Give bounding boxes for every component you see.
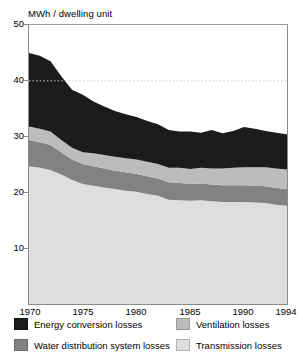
x-tick-label-1980: 1980 bbox=[125, 307, 146, 317]
x-tick-label-1990: 1990 bbox=[232, 307, 253, 317]
light-gray-swatch-icon bbox=[176, 339, 190, 351]
legend-label-ventilation: Ventilation losses bbox=[196, 319, 269, 330]
legend-item-ventilation: Ventilation losses bbox=[176, 318, 269, 330]
x-tick-label-1985: 1985 bbox=[179, 307, 200, 317]
legend-label-water-distribution: Water distribution system losses bbox=[34, 340, 170, 351]
chart-legend: Energy conversion losses Water distribut… bbox=[0, 318, 303, 357]
legend-item-transmission: Transmission losses bbox=[176, 339, 282, 351]
legend-label-transmission: Transmission losses bbox=[196, 340, 282, 351]
chart-container: MWh / dwelling unit 50 40 30 20 10 1970 … bbox=[0, 0, 303, 357]
x-tick-label-1975: 1975 bbox=[72, 307, 93, 317]
legend-label-energy-conversion: Energy conversion losses bbox=[34, 319, 142, 330]
legend-item-energy-conversion: Energy conversion losses bbox=[14, 318, 142, 330]
mid-gray-swatch-icon bbox=[176, 318, 190, 330]
x-tick-label-1970: 1970 bbox=[19, 307, 40, 317]
area-chart-svg bbox=[29, 25, 287, 304]
black-swatch-icon bbox=[14, 318, 28, 330]
dark-gray-swatch-icon bbox=[14, 339, 28, 351]
y-axis-title: MWh / dwelling unit bbox=[28, 8, 112, 19]
x-tick-label-1994: 1994 bbox=[275, 307, 296, 317]
y-axis: 50 40 30 20 10 bbox=[0, 0, 28, 357]
stacked-area-plot bbox=[29, 25, 287, 304]
plot-area bbox=[28, 24, 288, 305]
legend-item-water-distribution: Water distribution system losses bbox=[14, 339, 170, 351]
